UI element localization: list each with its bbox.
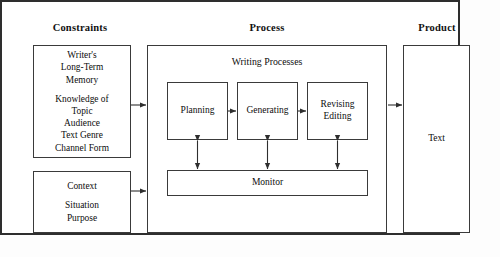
knowledge-line-2: Topic	[37, 105, 127, 117]
constraints-context-text: Context Situation Purpose	[34, 180, 130, 224]
knowledge-line-1: Knowledge of	[37, 93, 127, 105]
memory-line-3: Memory	[37, 74, 127, 86]
memory-text-spacer	[37, 86, 127, 93]
context-line-2: Situation	[37, 199, 127, 211]
revising-label: Revising	[321, 99, 355, 111]
knowledge-line-4: Text Genre	[37, 129, 127, 141]
context-text-spacer	[37, 192, 127, 199]
monitor-label: Monitor	[252, 177, 283, 189]
writing-processes-label: Writing Processes	[147, 56, 387, 67]
generating-label-stack: Generating	[238, 83, 297, 139]
planning-label-stack: Planning	[168, 83, 227, 139]
constraints-context-box: Context Situation Purpose	[33, 171, 131, 233]
constraints-memory-text: Writer's Long-Term Memory Knowledge of T…	[34, 49, 130, 154]
writing-process-diagram: Constraints Process Product Writer's Lon…	[0, 0, 500, 257]
knowledge-line-3: Audience	[37, 117, 127, 129]
revising-editing-label-stack: Revising Editing	[308, 83, 367, 139]
text-label: Text	[428, 133, 445, 145]
process-stage-revising-editing: Revising Editing	[307, 82, 368, 140]
section-heading-constraints: Constraints	[22, 22, 138, 33]
section-heading-product: Product	[398, 22, 476, 33]
editing-label: Editing	[324, 111, 352, 123]
planning-label: Planning	[181, 105, 215, 117]
process-monitor-box: Monitor	[167, 170, 368, 196]
memory-line-1: Writer's	[37, 49, 127, 61]
knowledge-line-5: Channel Form	[37, 142, 127, 154]
constraints-memory-box: Writer's Long-Term Memory Knowledge of T…	[33, 45, 131, 158]
context-line-1: Context	[37, 180, 127, 192]
product-text-box: Text	[403, 45, 470, 233]
section-heading-process: Process	[147, 22, 387, 33]
generating-label: Generating	[246, 105, 288, 117]
context-line-3: Purpose	[37, 212, 127, 224]
memory-line-2: Long-Term	[37, 61, 127, 73]
process-stage-generating: Generating	[237, 82, 298, 140]
process-stage-planning: Planning	[167, 82, 228, 140]
